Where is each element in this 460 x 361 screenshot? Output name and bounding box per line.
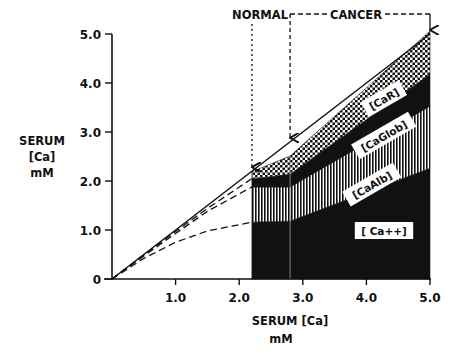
calcium-fraction-chart: 01.02.03.04.05.0 1.02.03.04.05.0 SERUM […	[0, 0, 460, 361]
cancer-label: CANCER	[330, 8, 382, 22]
y-axis-title: SERUM [Ca] mM	[19, 134, 65, 180]
y-tick-label: 3.0	[80, 126, 101, 140]
label-text: [ Ca++]	[361, 225, 407, 237]
x-tick-label: 1.0	[165, 291, 186, 305]
y-tick-label: 0	[93, 273, 101, 287]
x-axis-title-line2: mM	[269, 332, 292, 346]
region-caalb	[252, 187, 290, 222]
y-tick-label: 2.0	[80, 175, 101, 189]
x-tick-label: 4.0	[356, 291, 377, 305]
region-label-ca: [ Ca++]	[355, 222, 413, 239]
y-tick-label: 1.0	[80, 224, 101, 238]
normal-label: NORMAL	[232, 8, 289, 22]
x-axis-title-line1: SERUM [Ca]	[252, 314, 329, 328]
y-axis-ticks: 01.02.03.04.05.0	[80, 28, 112, 287]
y-tick-label: 4.0	[80, 77, 101, 91]
y-tick-label: 5.0	[80, 28, 101, 42]
y-axis-title-line2: [Ca]	[29, 150, 56, 164]
dashed-curve	[112, 222, 252, 279]
y-axis-title-line1: SERUM	[19, 134, 65, 148]
x-tick-label: 3.0	[292, 291, 313, 305]
stacked-regions	[252, 31, 430, 279]
x-axis-ticks: 1.02.03.04.05.0	[165, 279, 441, 305]
y-axis-title-line3: mM	[30, 166, 53, 180]
x-tick-label: 2.0	[229, 291, 250, 305]
x-tick-label: 5.0	[419, 291, 440, 305]
region-ca-ion	[252, 221, 290, 279]
x-axis-title: SERUM [Ca] mM	[252, 314, 329, 346]
